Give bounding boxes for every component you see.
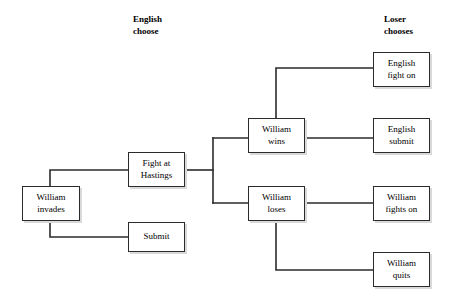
node-label-submit: Submit [141, 231, 171, 243]
column-header-loser-chooses: Loser chooses [384, 14, 413, 37]
node-label-william-fights-on: William fights on [384, 192, 420, 215]
node-william-fights-on[interactable]: William fights on [373, 186, 430, 221]
node-fight-at-hastings[interactable]: Fight at Hastings [128, 152, 185, 187]
node-label-william-loses: William loses [260, 192, 293, 215]
node-label-fight-at-hastings: Fight at Hastings [139, 158, 175, 181]
decision-tree-diagram: English chooseLoser chooses William inva… [0, 0, 457, 299]
column-header-english-choose: English choose [133, 14, 162, 37]
node-william-invades[interactable]: William invades [22, 186, 80, 221]
node-william-loses[interactable]: William loses [248, 186, 305, 221]
node-english-submit[interactable]: English submit [373, 118, 430, 153]
node-william-wins[interactable]: William wins [248, 118, 305, 153]
node-label-william-wins: William wins [260, 124, 293, 147]
connector-wins-to-english-fight-on [276, 68, 373, 118]
connector-loses-to-william-quits [276, 221, 373, 270]
node-submit[interactable]: Submit [128, 222, 185, 252]
node-english-fight-on[interactable]: English fight on [373, 52, 430, 87]
connector-invades-to-hastings [50, 170, 128, 186]
node-william-quits[interactable]: William quits [373, 252, 430, 287]
node-label-william-quits: William quits [385, 258, 418, 281]
node-label-english-submit: English submit [386, 124, 418, 147]
connector-invades-to-submit [50, 221, 128, 237]
node-label-english-fight-on: English fight on [385, 58, 417, 81]
node-label-william-invades: William invades [34, 192, 67, 215]
